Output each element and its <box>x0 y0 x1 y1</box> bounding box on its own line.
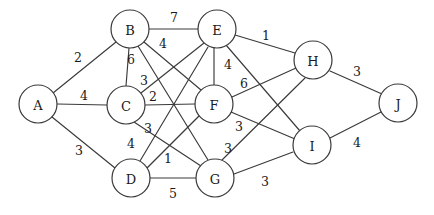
edge-B-F-weight-label: 4 <box>159 36 167 51</box>
edge-A-D <box>52 117 115 168</box>
node-label-I: I <box>309 139 314 154</box>
graph-node-G[interactable]: G <box>196 159 234 197</box>
graph-node-B[interactable]: B <box>111 10 149 48</box>
edge-F-H-weight-label: 6 <box>240 76 248 91</box>
node-label-B: B <box>125 23 135 38</box>
node-label-F: F <box>209 98 218 113</box>
edge-G-I-weight-label: 3 <box>261 174 269 189</box>
graph-canvas: ABCDEFGHIJ 24374632341514633334 <box>0 0 434 215</box>
nodes-layer: ABCDEFGHIJ <box>19 10 417 197</box>
graph-node-A[interactable]: A <box>19 85 57 123</box>
node-label-J: J <box>393 97 400 112</box>
edge-B-F <box>144 42 201 90</box>
edge-A-B <box>53 42 116 93</box>
edge-A-B-weight-label: 2 <box>74 50 82 65</box>
graph-node-J[interactable]: J <box>379 84 417 122</box>
edge-D-F <box>145 116 199 170</box>
edge-C-F <box>145 104 195 105</box>
edge-I-J-weight-label: 4 <box>353 135 361 150</box>
graph-node-H[interactable]: H <box>294 41 332 79</box>
edge-D-E-weight-label: 1 <box>164 151 172 166</box>
graph-node-I[interactable]: I <box>293 126 331 164</box>
graph-figure: ABCDEFGHIJ 24374632341514633334 <box>0 0 434 215</box>
edge-G-H-weight-label: 3 <box>224 141 232 156</box>
edge-B-C-weight-label: 6 <box>127 52 135 67</box>
edge-B-E-weight-label: 7 <box>170 10 178 25</box>
node-label-D: D <box>126 172 136 187</box>
graph-node-F[interactable]: F <box>195 85 233 123</box>
edge-C-E-weight-label: 3 <box>144 121 152 136</box>
node-label-E: E <box>212 23 222 38</box>
edge-C-E <box>141 43 204 93</box>
graph-node-D[interactable]: D <box>112 159 150 197</box>
node-label-C: C <box>121 99 131 114</box>
graph-node-E[interactable]: E <box>198 10 236 48</box>
edge-H-J-weight-label: 3 <box>353 64 361 79</box>
edge-E-H-weight-label: 1 <box>262 28 270 43</box>
node-label-A: A <box>32 98 43 113</box>
edge-A-C-weight-label: 4 <box>80 88 88 103</box>
edge-G-I <box>234 152 293 174</box>
edge-C-G-weight-label: 4 <box>127 136 135 151</box>
node-label-H: H <box>307 54 318 69</box>
edge-A-C <box>57 104 107 105</box>
edge-B-G-weight-label: 3 <box>140 73 148 88</box>
edge-C-F-weight-label: 2 <box>149 89 157 104</box>
edge-A-D-weight-label: 3 <box>75 143 83 158</box>
edge-D-G-weight-label: 5 <box>169 186 177 201</box>
graph-node-C[interactable]: C <box>107 86 145 124</box>
edge-E-F-weight-label: 4 <box>224 57 232 72</box>
node-label-G: G <box>210 172 220 187</box>
edge-F-I-weight-label: 3 <box>235 119 243 134</box>
